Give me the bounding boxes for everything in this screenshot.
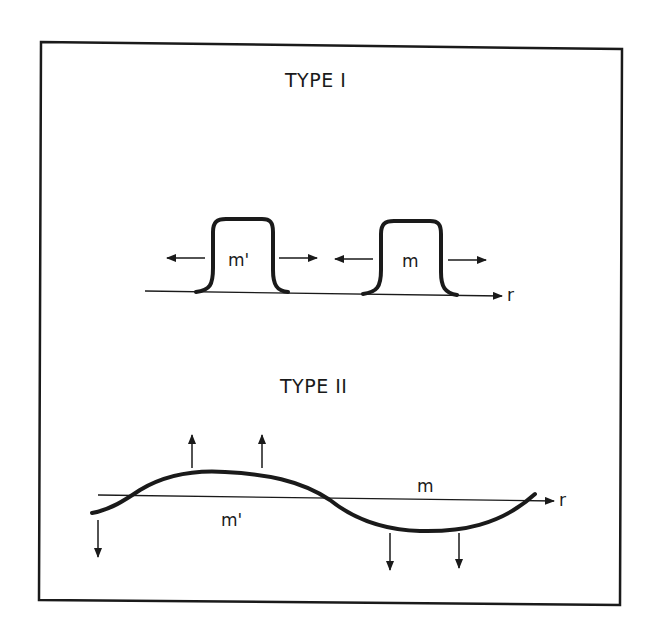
panel-type-1: TYPE I r m' m xyxy=(145,69,514,305)
label-m-prime-type-2: m' xyxy=(221,510,242,530)
r-axis-label-type-1: r xyxy=(507,285,514,305)
label-m-type-2: m xyxy=(417,476,434,496)
panel-type-2: TYPE II r m m' xyxy=(92,375,566,570)
figure-frame xyxy=(39,42,622,605)
label-m-type-1: m xyxy=(402,251,419,271)
r-axis-label-type-2: r xyxy=(559,490,566,510)
label-m-prime-type-1: m' xyxy=(228,250,249,270)
sinusoidal-perturbation xyxy=(92,472,535,532)
instability-types-diagram: TYPE I r m' m TYPE II r m m' xyxy=(0,0,648,643)
panel-title-type-2: TYPE II xyxy=(279,375,347,397)
panel-title-type-1: TYPE I xyxy=(284,69,346,91)
